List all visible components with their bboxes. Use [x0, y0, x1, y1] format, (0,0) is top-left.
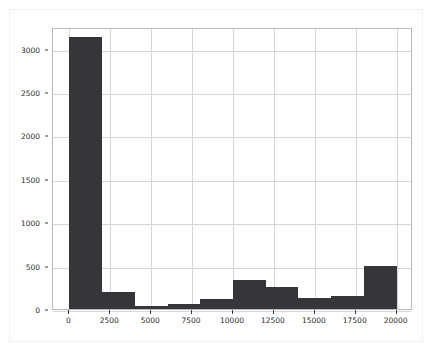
y-tick-label: 3000	[21, 45, 40, 54]
gridline-horizontal	[53, 94, 411, 95]
x-tick-label: 17500	[343, 316, 367, 325]
histogram-bar	[364, 266, 397, 309]
x-tick-label: 10000	[220, 316, 244, 325]
y-tick-label: 500	[26, 262, 40, 271]
histogram-bar	[102, 292, 135, 309]
x-tick-mark	[109, 310, 110, 314]
x-tick-mark	[150, 310, 151, 314]
y-tick-mark	[45, 136, 49, 137]
gridline-vertical	[315, 29, 316, 309]
y-tick-mark	[45, 179, 49, 180]
y-tick-label: 1500	[21, 175, 40, 184]
x-tick-mark	[191, 310, 192, 314]
y-tick-mark	[45, 93, 49, 94]
x-tick-mark	[314, 310, 315, 314]
histogram-bar	[298, 298, 331, 309]
x-tick-label: 0	[66, 316, 71, 325]
x-tick-label: 15000	[302, 316, 326, 325]
x-tick-label: 2500	[100, 316, 119, 325]
histogram-bar	[266, 287, 299, 309]
gridline-vertical	[151, 29, 152, 309]
y-tick-label: 0	[35, 306, 40, 315]
histogram-bar	[69, 37, 102, 309]
x-tick-mark	[68, 310, 69, 314]
plot-area	[52, 28, 412, 310]
histogram-bar	[200, 299, 233, 309]
gridline-vertical	[192, 29, 193, 309]
y-tick-mark	[45, 266, 49, 267]
y-tick-mark	[45, 223, 49, 224]
gridline-vertical	[110, 29, 111, 309]
y-tick-label: 2500	[21, 89, 40, 98]
gridline-horizontal	[53, 181, 411, 182]
x-tick-mark	[355, 310, 356, 314]
histogram-bar	[135, 306, 168, 309]
x-tick-label: 20000	[384, 316, 408, 325]
y-axis: 050010001500200025003000	[0, 28, 48, 310]
gridline-horizontal	[53, 51, 411, 52]
histogram-bar	[168, 304, 201, 309]
gridline-horizontal	[53, 224, 411, 225]
gridline-horizontal	[53, 268, 411, 269]
x-tick-mark	[232, 310, 233, 314]
x-tick-label: 7500	[182, 316, 201, 325]
gridline-vertical	[397, 29, 398, 309]
y-tick-mark	[45, 310, 49, 311]
x-tick-mark	[396, 310, 397, 314]
x-tick-label: 5000	[141, 316, 160, 325]
histogram-bar	[233, 280, 266, 310]
x-axis: 02500500075001000012500150001750020000	[52, 310, 412, 330]
y-tick-label: 1000	[21, 219, 40, 228]
gridline-vertical	[274, 29, 275, 309]
histogram-bar	[331, 296, 364, 309]
y-tick-label: 2000	[21, 132, 40, 141]
gridline-vertical	[233, 29, 234, 309]
x-tick-label: 12500	[261, 316, 285, 325]
x-tick-mark	[273, 310, 274, 314]
gridline-vertical	[356, 29, 357, 309]
histogram-figure: 050010001500200025003000 025005000750010…	[0, 0, 436, 360]
gridline-horizontal	[53, 137, 411, 138]
y-tick-mark	[45, 49, 49, 50]
